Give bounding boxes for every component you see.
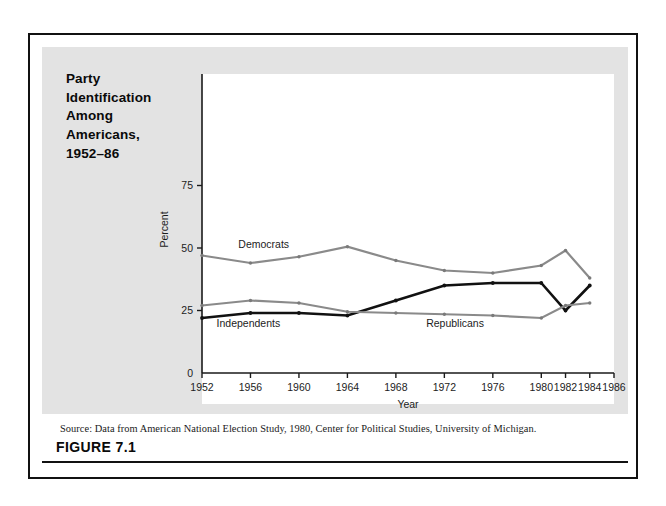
x-tick-label: 1986 <box>602 381 626 393</box>
data-point <box>442 284 446 288</box>
data-point <box>200 254 203 257</box>
data-point <box>564 309 568 313</box>
x-tick-label: 1982 <box>554 381 578 393</box>
data-point <box>539 281 543 285</box>
x-tick-label: 1984 <box>578 381 602 393</box>
caption-divider <box>42 461 628 463</box>
data-point <box>297 255 300 258</box>
data-point <box>588 284 592 288</box>
data-point <box>564 249 567 252</box>
data-point <box>491 314 494 317</box>
y-tick-label: 0 <box>187 367 193 379</box>
data-point <box>394 259 397 262</box>
figure-frame: Party Identification Among Americans, 19… <box>28 33 638 479</box>
x-tick-label: 1964 <box>336 381 360 393</box>
y-tick-label: 75 <box>181 179 193 191</box>
data-point <box>564 304 567 307</box>
data-point <box>394 311 397 314</box>
data-point <box>443 313 446 316</box>
data-point <box>540 316 543 319</box>
data-point <box>346 310 349 313</box>
y-tick-label: 25 <box>181 304 193 316</box>
series-label-independents: Independents <box>217 317 281 329</box>
data-point <box>297 311 301 315</box>
x-axis-title: Year <box>397 398 419 410</box>
series-label-republicans: Republicans <box>426 317 484 329</box>
data-point <box>249 261 252 264</box>
data-point <box>200 316 204 320</box>
x-tick-label: 1960 <box>287 381 311 393</box>
figure-panel: Party Identification Among Americans, 19… <box>42 47 628 414</box>
data-point <box>249 311 253 315</box>
x-tick-label: 1972 <box>433 381 457 393</box>
x-tick-label: 1976 <box>481 381 505 393</box>
data-point <box>491 271 494 274</box>
x-tick-label: 1952 <box>190 381 214 393</box>
data-point <box>588 301 591 304</box>
data-point <box>491 281 495 285</box>
series-line-republicans <box>202 301 590 319</box>
data-point <box>346 245 349 248</box>
x-tick-label: 1968 <box>384 381 408 393</box>
data-point <box>200 304 203 307</box>
line-chart: 0255075195219561960196419681972197619801… <box>42 47 628 414</box>
data-point <box>346 314 350 318</box>
y-axis-title: Percent <box>158 211 170 247</box>
data-point <box>540 264 543 267</box>
x-tick-label: 1980 <box>530 381 554 393</box>
x-tick-label: 1956 <box>239 381 263 393</box>
data-point <box>297 301 300 304</box>
figure-caption: FIGURE 7.1 <box>56 439 136 455</box>
data-point <box>588 276 591 279</box>
data-point <box>394 299 398 303</box>
series-line-democrats <box>202 247 590 278</box>
data-point <box>443 269 446 272</box>
data-point <box>249 299 252 302</box>
source-note: Source: Data from American National Elec… <box>60 423 608 434</box>
y-tick-label: 50 <box>181 242 193 254</box>
series-label-democrats: Democrats <box>238 238 289 250</box>
